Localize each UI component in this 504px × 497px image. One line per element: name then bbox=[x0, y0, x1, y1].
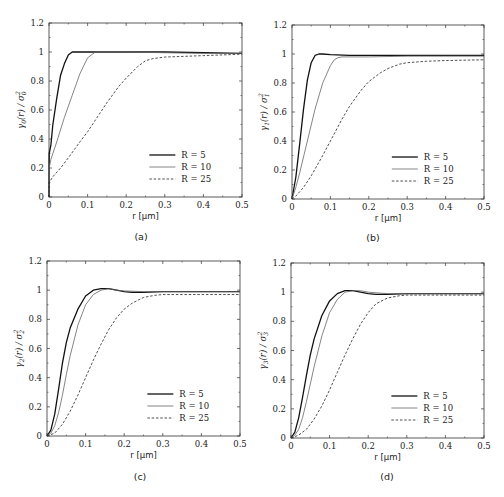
x-tick-label: 0.4 bbox=[195, 439, 209, 449]
y-tick-label: 0.2 bbox=[30, 163, 44, 173]
y-axis-label-part: (r) / σ bbox=[16, 95, 26, 120]
series-line-r5 bbox=[291, 291, 484, 438]
series-line-r10 bbox=[291, 291, 484, 438]
y-axis-label: γ3(r) / σ32 bbox=[256, 331, 269, 369]
y-axis-label: γ2(r) / σ22 bbox=[12, 329, 25, 367]
y-tick-label: 0.8 bbox=[30, 76, 44, 86]
series-line-r5 bbox=[49, 52, 242, 197]
y-tick-label: 1.2 bbox=[273, 20, 287, 30]
x-tick-label: 0.5 bbox=[477, 441, 491, 451]
y-axis-label-part: 0 bbox=[20, 91, 27, 95]
y-tick-label: 0.6 bbox=[28, 344, 42, 354]
y-axis-label-part: (r) / σ bbox=[14, 334, 24, 359]
panel-label: (a) bbox=[134, 231, 147, 242]
figure-canvas: 00.10.20.30.40.500.20.40.60.811.2R = 5R … bbox=[0, 0, 504, 497]
x-tick-label: 0 bbox=[288, 441, 293, 451]
y-axis-label-part: (r) / σ bbox=[258, 336, 268, 361]
y-tick-label: 0.4 bbox=[272, 375, 286, 385]
x-axis-label: r [µm] bbox=[374, 452, 401, 462]
x-tick-label: 0.5 bbox=[477, 202, 491, 212]
legend-label: R = 10 bbox=[181, 162, 211, 172]
y-tick-label: 1 bbox=[37, 285, 42, 295]
x-tick-label: 0.5 bbox=[233, 439, 247, 449]
y-tick-label: 0 bbox=[39, 192, 44, 202]
y-tick-label: 0 bbox=[281, 433, 286, 443]
y-axis-label-part: (r) / σ bbox=[259, 97, 269, 122]
legend-label: R = 25 bbox=[181, 174, 211, 184]
y-tick-label: 0.6 bbox=[273, 107, 287, 117]
x-tick-label: 0.1 bbox=[323, 441, 337, 451]
y-tick-label: 0.8 bbox=[272, 316, 286, 326]
y-axis-label-part: 1 bbox=[263, 93, 270, 97]
series-line-r10 bbox=[292, 56, 484, 199]
y-tick-label: 0.2 bbox=[272, 404, 286, 414]
chart-panel-c: 00.10.20.30.40.500.20.40.60.811.2R = 5R … bbox=[12, 256, 247, 482]
y-tick-label: 0.4 bbox=[273, 136, 287, 146]
y-axis-label-part: 2 bbox=[257, 93, 264, 98]
chart-panel-b: 00.10.20.30.40.500.20.40.60.811.2R = 5R … bbox=[257, 20, 491, 243]
plot-frame bbox=[49, 23, 242, 197]
plot-frame bbox=[292, 25, 484, 199]
x-tick-label: 0.4 bbox=[439, 441, 453, 451]
y-tick-label: 1.2 bbox=[28, 256, 42, 266]
x-tick-label: 0.2 bbox=[361, 441, 375, 451]
x-tick-label: 0.2 bbox=[117, 439, 131, 449]
legend-label: R = 25 bbox=[424, 176, 454, 186]
y-tick-label: 0 bbox=[282, 194, 287, 204]
panel-label: (c) bbox=[134, 471, 147, 482]
x-axis-label: r [µm] bbox=[132, 211, 159, 221]
series-line-r25 bbox=[291, 295, 484, 438]
panel-label: (b) bbox=[366, 232, 379, 243]
x-axis-label: r [µm] bbox=[375, 213, 402, 223]
y-axis-label-part: 2 bbox=[256, 331, 263, 336]
x-axis-label: r [µm] bbox=[130, 450, 157, 460]
x-tick-label: 0.2 bbox=[362, 202, 376, 212]
x-tick-label: 0.3 bbox=[156, 439, 170, 449]
y-tick-label: 0.4 bbox=[28, 373, 42, 383]
y-axis-label-part: 3 bbox=[262, 332, 269, 336]
x-tick-label: 0.5 bbox=[235, 200, 249, 210]
y-axis-label-part: 2 bbox=[12, 329, 19, 334]
series-line-r5 bbox=[292, 54, 484, 199]
x-tick-label: 0.3 bbox=[400, 441, 414, 451]
legend-label: R = 10 bbox=[179, 401, 209, 411]
x-tick-label: 0.4 bbox=[197, 200, 211, 210]
y-axis-label: γ1(r) / σ12 bbox=[257, 93, 270, 131]
x-tick-label: 0.3 bbox=[158, 200, 172, 210]
legend-label: R = 10 bbox=[423, 403, 453, 413]
legend-label: R = 5 bbox=[423, 391, 447, 401]
plot-frame bbox=[291, 263, 484, 438]
series-line-r25 bbox=[47, 295, 240, 436]
legend-label: R = 25 bbox=[179, 413, 209, 423]
y-tick-label: 0.2 bbox=[273, 165, 287, 175]
y-tick-label: 0.6 bbox=[272, 346, 286, 356]
y-axis-label-part: 2 bbox=[14, 91, 21, 96]
y-tick-label: 0.6 bbox=[30, 105, 44, 115]
x-tick-label: 0.1 bbox=[79, 439, 93, 449]
legend-label: R = 5 bbox=[181, 150, 205, 160]
legend-label: R = 5 bbox=[424, 152, 448, 162]
x-tick-label: 0 bbox=[46, 200, 51, 210]
y-tick-label: 1 bbox=[282, 49, 287, 59]
legend-label: R = 5 bbox=[179, 389, 203, 399]
y-tick-label: 1 bbox=[281, 287, 286, 297]
x-tick-label: 0.1 bbox=[324, 202, 338, 212]
y-tick-label: 0.2 bbox=[28, 402, 42, 412]
series-line-r25 bbox=[292, 60, 484, 199]
y-tick-label: 0.8 bbox=[273, 78, 287, 88]
x-tick-label: 0.1 bbox=[81, 200, 95, 210]
chart-panel-d: 00.10.20.30.40.500.20.40.60.811.2R = 5R … bbox=[256, 258, 491, 482]
y-tick-label: 1.2 bbox=[30, 18, 44, 28]
y-tick-label: 0.8 bbox=[28, 314, 42, 324]
panel-label: (d) bbox=[380, 471, 393, 482]
series-line-r5 bbox=[47, 289, 240, 436]
y-tick-label: 1.2 bbox=[272, 258, 286, 268]
series-line-r25 bbox=[49, 54, 242, 197]
chart-panel-a: 00.10.20.30.40.500.20.40.60.811.2R = 5R … bbox=[14, 18, 249, 242]
series-line-r10 bbox=[47, 289, 240, 436]
y-tick-label: 0 bbox=[37, 431, 42, 441]
x-tick-label: 0.3 bbox=[400, 202, 414, 212]
x-tick-label: 0 bbox=[289, 202, 294, 212]
y-axis-label-part: 2 bbox=[18, 330, 25, 335]
x-tick-label: 0.2 bbox=[119, 200, 133, 210]
